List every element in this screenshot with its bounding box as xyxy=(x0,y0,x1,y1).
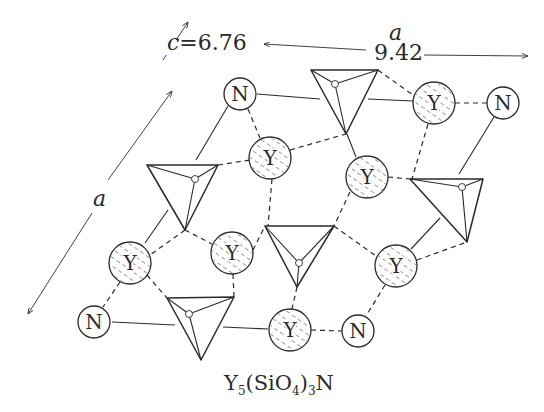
formula-sub-5: 5 xyxy=(238,384,246,398)
formula-paren: ) xyxy=(300,371,308,395)
nitrogen-atom: N xyxy=(78,306,110,338)
silicon-atom-icon xyxy=(296,260,303,267)
sio4-tetrahedron xyxy=(167,297,234,360)
atom-label: Y xyxy=(388,254,403,278)
atom-label: Y xyxy=(359,165,374,189)
formula-caption: Y5(SiO4)3N xyxy=(224,373,334,397)
c-axis-symbol: c xyxy=(167,30,179,55)
formula-n: N xyxy=(316,371,334,395)
yttrium-atom: Y xyxy=(375,245,417,287)
silicon-atom-icon xyxy=(459,184,466,191)
yttrium-atom: Y xyxy=(413,82,455,124)
formula-sub-3: 3 xyxy=(308,384,316,398)
a-horizontal-arrow-left xyxy=(264,44,366,50)
c-axis-value: 6.76 xyxy=(198,30,247,55)
nitrogen-atom: N xyxy=(224,78,256,110)
atom-label: Y xyxy=(122,251,137,275)
unit-cell-edges xyxy=(112,94,494,329)
a-horizontal-value: 9.42 xyxy=(374,42,423,64)
atom-label: Y xyxy=(224,241,239,265)
silicon-atom-icon xyxy=(192,176,199,183)
sio4-tetrahedron xyxy=(265,226,334,287)
silicon-atom-icon xyxy=(186,311,193,318)
atom-label: Y xyxy=(262,146,277,170)
sio4-tetrahedron xyxy=(147,165,218,230)
sio4-tetrahedron xyxy=(311,70,378,134)
c-axis-equals: = xyxy=(179,30,197,55)
a-diagonal-symbol: a xyxy=(93,188,106,210)
atom-label: N xyxy=(349,319,367,343)
formula-sub-4: 4 xyxy=(292,384,300,398)
sio4-tetrahedron xyxy=(410,179,483,242)
nitrogen-atom: N xyxy=(342,315,374,347)
silicon-atom-icon xyxy=(332,81,339,88)
nitrogen-atom: N xyxy=(487,87,519,119)
formula-sio: (SiO xyxy=(246,371,293,395)
yttrium-atom: Y xyxy=(109,242,151,284)
yttrium-atom: Y xyxy=(269,309,311,351)
atom-label: N xyxy=(494,91,512,115)
atom-label: Y xyxy=(426,91,441,115)
atom-label: N xyxy=(85,310,103,334)
c-axis-label: c=6.76 xyxy=(167,32,247,54)
a-horizontal-arrow-right xyxy=(424,55,528,56)
yttrium-atom: Y xyxy=(211,232,253,274)
yttrium-atom: Y xyxy=(346,156,388,198)
atom-label: Y xyxy=(282,318,297,342)
crystal-structure-diagram: NYYNYYYYNYN xyxy=(0,0,544,412)
yttrium-atom: Y xyxy=(249,137,291,179)
atom-label: N xyxy=(231,82,249,106)
formula-y: Y xyxy=(224,371,238,395)
a-diagonal-arrow-lower xyxy=(28,213,92,314)
